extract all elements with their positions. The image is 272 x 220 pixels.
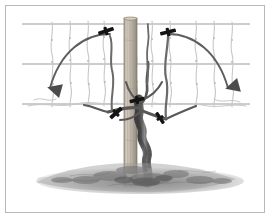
grapevine-pruning-illustration	[0, 0, 272, 220]
right-arc-path	[168, 34, 228, 88]
left-arc-path	[50, 34, 110, 88]
cut-mark	[159, 26, 177, 38]
soil-mound	[36, 163, 244, 194]
trunk-arms	[84, 62, 196, 120]
cane-bend-arrows	[50, 34, 228, 88]
figure-root: Grapevine cane pruning and cane bending …	[0, 0, 272, 220]
vine-trunk	[84, 24, 196, 186]
